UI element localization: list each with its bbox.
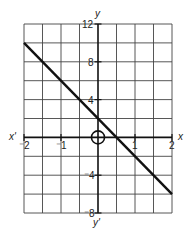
x-tick-label: ⁻1 — [56, 140, 67, 151]
x-tick-label: ⁻2 — [19, 140, 30, 151]
y-tick-label: 12 — [82, 19, 94, 30]
x-axis-label: x — [177, 131, 184, 142]
x-prime-axis-label: x' — [8, 131, 17, 142]
y-tick-label: 4 — [88, 95, 94, 106]
y-tick-label: ⁻8 — [84, 208, 95, 219]
y-axis-label: y — [94, 8, 101, 19]
y-tick-label: ⁻4 — [84, 170, 95, 181]
x-tick-label: 1 — [132, 140, 138, 151]
coordinate-plane: y y' x x' ⁻2 ⁻1 1 2 12 8 4 ⁻4 ⁻8 — [0, 0, 191, 247]
x-tick-label: 2 — [169, 140, 175, 151]
y-tick-label: 8 — [88, 57, 94, 68]
